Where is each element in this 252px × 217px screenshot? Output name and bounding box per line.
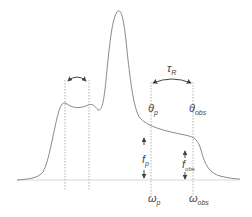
tau-r-label: τR: [167, 62, 176, 76]
spectrum-curve: [17, 11, 240, 180]
omega-p-label: ωp: [148, 192, 161, 207]
omega-obs-label: ωobs: [189, 192, 209, 206]
left-width-arrow: [68, 77, 86, 81]
tau-r-arrow: [153, 79, 191, 83]
spectrum-diagram: τR θp θobs fp fobs ωp ωobs: [0, 0, 252, 217]
f-p-label: fp: [142, 153, 149, 168]
theta-p-label: θp: [148, 102, 158, 117]
theta-obs-label: θobs: [189, 102, 207, 116]
